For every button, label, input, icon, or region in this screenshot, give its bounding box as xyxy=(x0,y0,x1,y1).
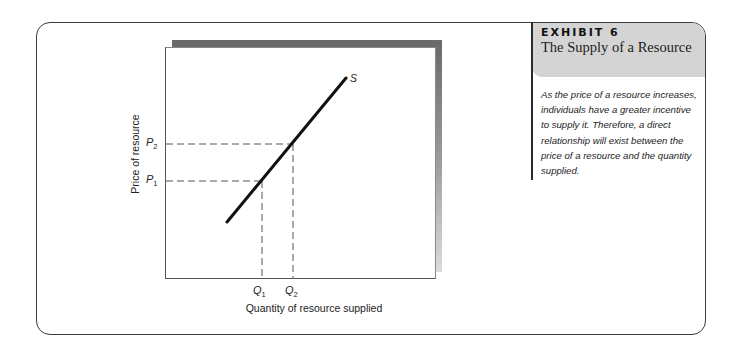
y-tick-p2: P2 xyxy=(146,136,158,151)
x-tick-q2: Q2 xyxy=(285,284,298,299)
plot-shadow-top xyxy=(172,40,442,47)
y-tick-p1: P1 xyxy=(146,173,158,188)
plot-area xyxy=(165,47,436,279)
exhibit-divider xyxy=(531,22,533,180)
exhibit-caption: As the price of a resource increases, in… xyxy=(541,87,701,178)
plot-shadow-right xyxy=(436,40,442,272)
y-axis-label: Price of resource xyxy=(129,109,141,199)
exhibit-title: The Supply of a Resource xyxy=(541,38,701,56)
x-axis-label: Quantity of resource supplied xyxy=(224,302,404,314)
x-tick-q1: Q1 xyxy=(253,284,266,299)
supply-curve-label: S xyxy=(350,72,357,84)
